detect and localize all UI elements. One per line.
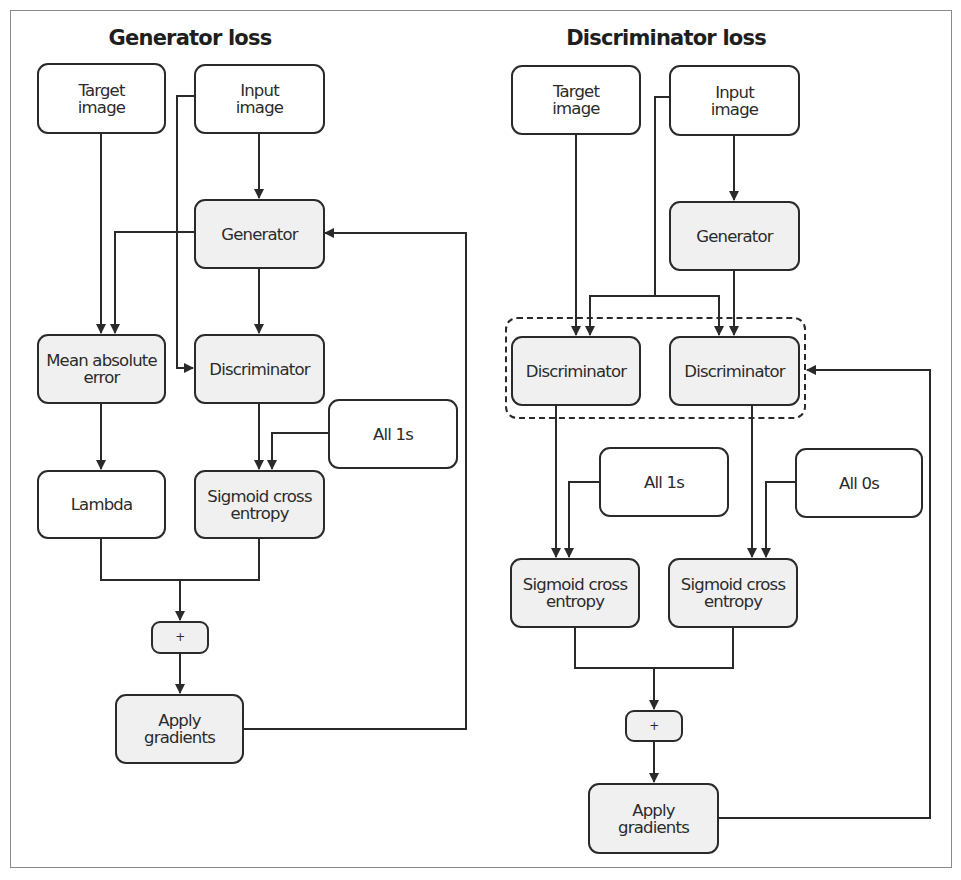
d-plus-node: +	[625, 710, 683, 742]
g-input-image-node: Input image	[194, 64, 325, 134]
edge-generator-to-mae	[115, 232, 194, 333]
g-plus-node: +	[151, 621, 209, 654]
g-target-image-node: Target image	[37, 63, 166, 134]
discriminator-loss-title: Discriminator loss	[566, 26, 766, 50]
g-mean-absolute-error-node: Mean absolute error	[37, 334, 166, 404]
edge-all1s-to-sigmoid	[272, 433, 328, 469]
d-all-1s-node: All 1s	[599, 447, 729, 517]
edge-d-all0s-to-sigmoid	[766, 482, 795, 557]
d-apply-gradients-node: Apply gradients	[588, 783, 719, 854]
g-all-1s-node: All 1s	[328, 399, 458, 469]
g-discriminator-node: Discriminator	[194, 334, 325, 404]
d-sigmoid-cross-entropy-real-node: Sigmoid cross entropy	[510, 558, 640, 628]
g-sigmoid-cross-entropy-node: Sigmoid cross entropy	[194, 470, 325, 539]
d-target-image-node: Target image	[511, 65, 641, 135]
edge-d-input-split	[655, 97, 669, 296]
g-lambda-node: Lambda	[37, 470, 166, 539]
g-generator-node: Generator	[194, 199, 325, 269]
d-discriminator-real-node: Discriminator	[511, 336, 641, 406]
generator-loss-title: Generator loss	[109, 26, 272, 50]
d-input-image-node: Input image	[669, 65, 800, 136]
edge-d-all1s-to-sigmoid	[569, 482, 599, 557]
edge-lambda-sigmoid-merge	[101, 538, 259, 580]
d-generator-node: Generator	[669, 201, 800, 271]
edge-d-sigmoid-merge	[575, 627, 733, 668]
g-apply-gradients-node: Apply gradients	[115, 694, 244, 764]
d-all-0s-node: All 0s	[795, 448, 923, 518]
d-sigmoid-cross-entropy-fake-node: Sigmoid cross entropy	[668, 558, 798, 628]
d-discriminator-fake-node: Discriminator	[669, 336, 800, 406]
